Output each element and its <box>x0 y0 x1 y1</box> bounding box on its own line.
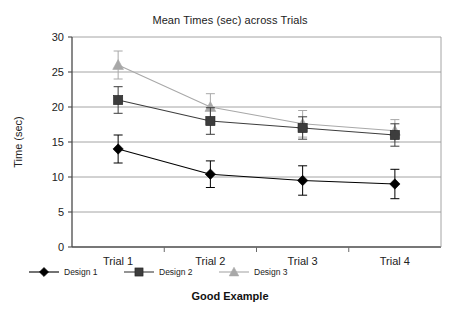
y-tick-label: 5 <box>58 206 64 218</box>
data-point <box>113 144 123 154</box>
legend-label: Design 2 <box>159 267 193 277</box>
legend-label: Design 1 <box>64 267 98 277</box>
data-series <box>113 51 401 199</box>
x-tick-label: Trial 1 <box>103 255 133 267</box>
chart-legend: Design 1Design 2Design 3 <box>29 267 288 277</box>
x-axis-ticks: Trial 1Trial 2Trial 3Trial 4 <box>103 247 410 267</box>
legend-marker <box>39 267 48 276</box>
series-line <box>118 149 395 184</box>
y-tick-label: 15 <box>52 136 64 148</box>
y-tick-label: 0 <box>58 241 64 253</box>
data-point <box>206 116 215 125</box>
y-tick-label: 20 <box>52 101 64 113</box>
data-point <box>205 169 215 179</box>
chart-figure: Mean Times (sec) across Trials 051015202… <box>0 0 460 316</box>
series-design-2 <box>114 87 400 147</box>
y-tick-label: 25 <box>52 66 64 78</box>
legend-marker <box>135 268 143 276</box>
y-tick-label: 10 <box>52 171 64 183</box>
legend-item-design-2[interactable]: Design 2 <box>124 267 193 277</box>
x-tick-label: Trial 2 <box>195 255 225 267</box>
legend-label: Design 3 <box>254 267 288 277</box>
series-design-1 <box>113 135 400 199</box>
series-line <box>118 65 395 131</box>
series-design-3 <box>113 51 401 142</box>
y-axis-ticks: 051015202530 <box>52 31 72 253</box>
data-point <box>390 179 400 189</box>
data-point <box>114 95 123 104</box>
legend-item-design-1[interactable]: Design 1 <box>29 267 98 277</box>
data-point <box>113 60 124 70</box>
legend-item-design-3[interactable]: Design 3 <box>219 267 288 277</box>
y-tick-label: 30 <box>52 31 64 43</box>
data-point <box>390 130 399 139</box>
chart-plot: 051015202530 Trial 1Trial 2Trial 3Trial … <box>0 0 460 316</box>
x-axis-title: Good Example <box>191 290 268 302</box>
y-axis-title: Time (sec) <box>12 116 24 168</box>
x-tick-label: Trial 4 <box>380 255 410 267</box>
x-tick-label: Trial 3 <box>288 255 318 267</box>
series-line <box>118 100 395 135</box>
data-point <box>298 123 307 132</box>
